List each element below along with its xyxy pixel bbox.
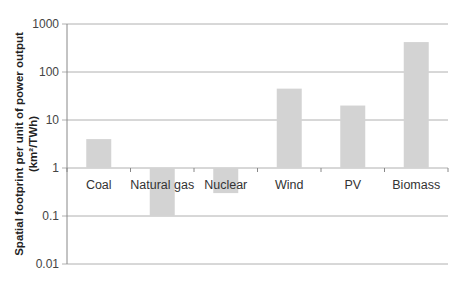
y-axis-label-line2: (km²/TWh): [26, 32, 40, 256]
y-tick-label: 1: [52, 161, 59, 175]
bar-biomass: [404, 42, 429, 168]
x-category-label: Coal: [86, 178, 112, 192]
x-category-label: Natural gas: [130, 178, 194, 192]
y-tick-label: 10: [46, 113, 60, 127]
x-category-label: Nuclear: [204, 178, 247, 192]
bar-chart: 10001001010.10.01 CoalNatural gasNuclear…: [0, 0, 464, 284]
x-axis-category-labels: CoalNatural gasNuclearWindPVBiomass: [86, 178, 440, 192]
gridlines: [62, 24, 448, 264]
y-axis-label-line1: Spatial footprint per unit of power outp…: [12, 32, 26, 256]
bar-wind: [277, 89, 302, 168]
x-category-label: Wind: [275, 178, 304, 192]
bar-coal: [86, 139, 111, 168]
y-axis-label: Spatial footprint per unit of power outp…: [6, 24, 46, 264]
bar-pv: [340, 106, 365, 168]
x-category-label: PV: [344, 178, 361, 192]
x-category-label: Biomass: [392, 178, 440, 192]
bar-natural-gas: [150, 168, 175, 216]
